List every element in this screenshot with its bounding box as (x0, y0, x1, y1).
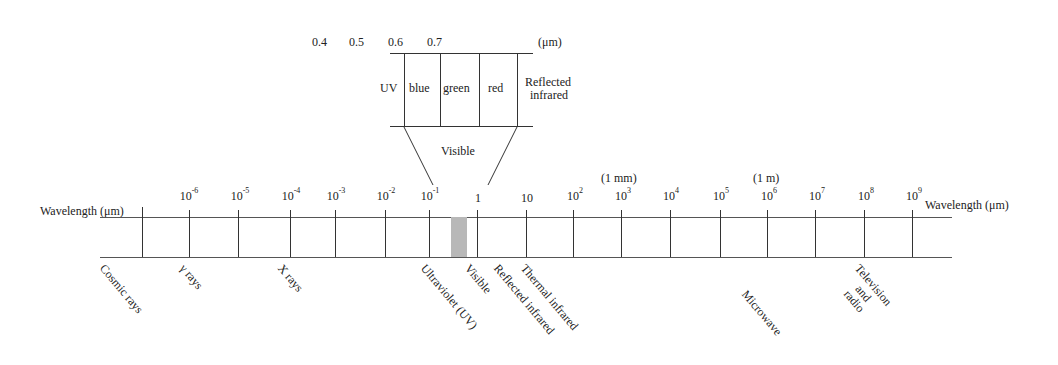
tick-line (864, 210, 865, 257)
tick-label: 10-6 (180, 190, 199, 202)
tick-line (142, 207, 143, 257)
tick-label: 109 (906, 190, 922, 202)
visible-band-shade (451, 217, 467, 257)
tick-line (815, 210, 816, 257)
tick-label: 1 (475, 192, 481, 204)
tick-line (670, 210, 671, 257)
tick-line (526, 210, 527, 257)
tick-line (335, 210, 336, 257)
axis-label-right: Wavelength (μm) (925, 199, 1009, 211)
tick-label: 10-4 (282, 190, 301, 202)
tick-label: 103 (615, 190, 631, 202)
tick-line (573, 210, 574, 257)
tick-label: 106 (761, 190, 777, 202)
axis-bottom-line (100, 257, 952, 258)
tick-label: 105 (713, 190, 729, 202)
tick-line (290, 210, 291, 257)
tick-label: 104 (663, 190, 679, 202)
tick-label: 10-1 (421, 190, 440, 202)
tick-line (429, 210, 430, 257)
annotation-1m: (1 m) (753, 172, 779, 184)
tick-line (621, 210, 622, 257)
tick-label: 10-2 (377, 190, 396, 202)
tick-line (912, 210, 913, 257)
tick-line (477, 210, 478, 257)
axis-label-left: Wavelength (μm) (40, 205, 124, 217)
tick-label: 10-5 (231, 190, 250, 202)
tick-line (767, 210, 768, 257)
tick-line (189, 210, 190, 257)
tick-line (385, 210, 386, 257)
tick-label: 108 (858, 190, 874, 202)
tick-line (720, 210, 721, 257)
tick-line (238, 210, 239, 257)
tick-label: 107 (809, 190, 825, 202)
annotation-1mm: (1 mm) (601, 172, 637, 184)
tick-label: 102 (567, 190, 583, 202)
tick-label: 10 (521, 192, 533, 204)
tick-label: 10-3 (327, 190, 346, 202)
